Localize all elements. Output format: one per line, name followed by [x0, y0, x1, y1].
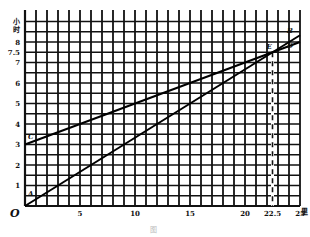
y-tick-label: 7 — [15, 58, 20, 67]
y-tick-label: 2 — [15, 161, 20, 170]
point-label-D: D — [286, 41, 294, 50]
point-label-E: E — [266, 42, 273, 51]
series-lines — [25, 35, 300, 206]
point-label-A: A — [27, 189, 34, 198]
point-label-B: B — [286, 26, 293, 35]
y-tick-label: 3 — [15, 140, 20, 149]
y-axis-unit: 小 — [12, 17, 20, 26]
y-tick-label: 5 — [15, 99, 20, 108]
y-tick-label: 1 — [15, 181, 20, 190]
dashed-guide-22.5 — [271, 52, 274, 206]
y-tick-label: 7.5 — [8, 48, 20, 57]
x-tick-label: 22.5 — [264, 209, 281, 218]
point-label-C: C — [28, 132, 34, 141]
x-tick-label: 5 — [78, 209, 83, 218]
x-tick-label: 20 — [240, 209, 250, 218]
x-tick-label: 10 — [130, 209, 140, 218]
chart: ABCDE12345677.58小时510152022.525 O 里 图 — [0, 0, 310, 237]
figure-caption: 图 — [150, 226, 157, 234]
series-line-AB — [25, 35, 300, 206]
grid — [25, 10, 300, 206]
origin-label: O — [10, 207, 20, 220]
y-tick-label: 8 — [15, 38, 20, 47]
y-tick-label: 4 — [15, 120, 20, 129]
x-axis-unit: 里 — [301, 207, 308, 216]
x-tick-label: 15 — [185, 209, 195, 218]
y-axis-unit: 时 — [13, 25, 20, 34]
y-tick-label: 6 — [15, 79, 20, 88]
